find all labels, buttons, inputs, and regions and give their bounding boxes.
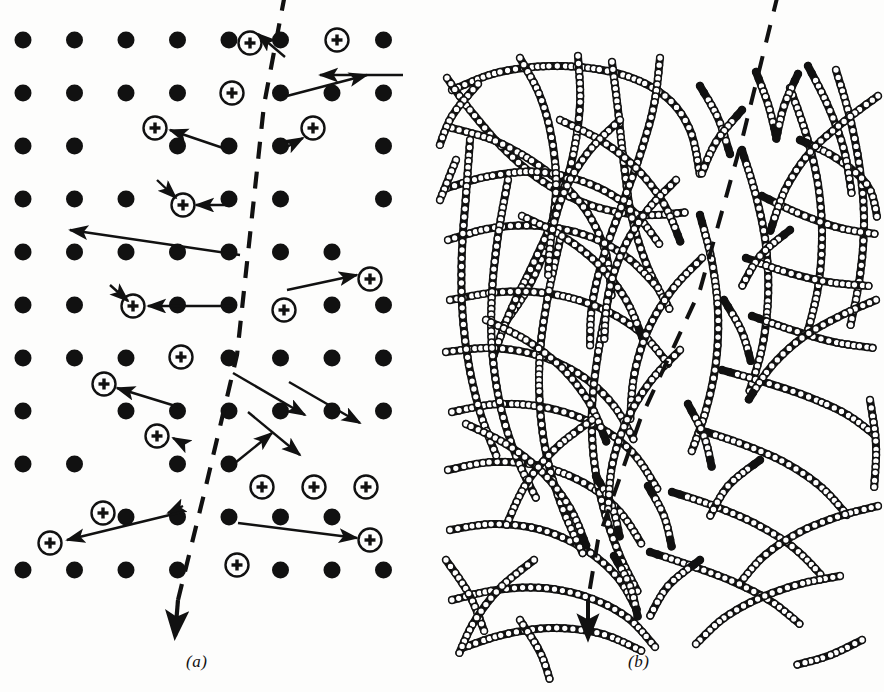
- chain-bead: [607, 234, 614, 241]
- defect-atom-circled-plus: [326, 29, 349, 52]
- chain-bead: [534, 168, 541, 175]
- chain-bead: [668, 98, 675, 105]
- chain-bead: [657, 55, 664, 62]
- chain-bead: [673, 104, 680, 111]
- chain-bead: [730, 477, 737, 484]
- chain-bead: [595, 261, 602, 268]
- chain-bead: [714, 499, 721, 506]
- chain-bead: [656, 349, 663, 356]
- chain-bead: [576, 198, 583, 205]
- chain-bead: [491, 368, 498, 375]
- chain-bead: [736, 440, 743, 447]
- chain-bead: [744, 516, 751, 523]
- chain-end-bead: [745, 350, 752, 357]
- chain-bead: [807, 318, 814, 325]
- chain-bead: [587, 550, 594, 557]
- chain-bead: [627, 256, 634, 263]
- chain-bead: [455, 595, 462, 602]
- chain-bead: [503, 521, 510, 528]
- chain-bead: [682, 117, 689, 124]
- chain-bead: [784, 95, 791, 102]
- chain-bead: [593, 364, 600, 371]
- chain-bead: [818, 335, 825, 342]
- chain-bead: [790, 388, 797, 395]
- chain-bead: [647, 612, 654, 619]
- chain-bead: [512, 296, 519, 303]
- chain-bead: [769, 546, 776, 553]
- chain-bead: [577, 425, 584, 432]
- chain-bead: [535, 464, 542, 471]
- chain-bead: [500, 414, 507, 421]
- lattice-atom: [221, 32, 238, 49]
- chain-bead: [573, 536, 580, 543]
- chain-end-bead: [749, 313, 756, 320]
- chain-bead: [857, 270, 864, 277]
- chain-bead: [833, 67, 840, 74]
- lattice-atom: [272, 350, 289, 367]
- chain-bead: [604, 207, 611, 214]
- chain-bead: [486, 459, 493, 466]
- chain-bead: [456, 407, 463, 414]
- chain-bead: [644, 129, 651, 136]
- chain-bead: [476, 118, 483, 125]
- chain-end-bead: [596, 479, 603, 486]
- chain-bead: [818, 243, 825, 250]
- chain-bead: [458, 296, 465, 303]
- chain-bead: [571, 241, 578, 248]
- chain-bead: [601, 187, 608, 194]
- chain-bead: [524, 562, 531, 569]
- chain-end-bead: [759, 193, 766, 200]
- defect-atom-circled-plus: [355, 476, 378, 499]
- chain-bead: [869, 344, 876, 351]
- chain-bead: [662, 93, 669, 100]
- lattice-atom: [272, 191, 289, 208]
- chain-bead: [464, 354, 471, 361]
- chain-bead: [643, 176, 650, 183]
- chain-bead: [575, 591, 582, 598]
- chain-end-bead: [677, 238, 684, 245]
- chain-bead: [589, 596, 596, 603]
- chain-bead: [615, 438, 622, 445]
- lattice-atom: [15, 85, 32, 102]
- chain-bead: [550, 142, 557, 149]
- chain-bead: [617, 117, 624, 124]
- chain-bead: [493, 383, 500, 390]
- chain-bead: [595, 348, 602, 355]
- defect-atom-circled-plus: [39, 532, 62, 555]
- chain-bead: [740, 603, 747, 610]
- chain-bead: [532, 494, 539, 501]
- chain-bead: [673, 177, 680, 184]
- chain-bead: [606, 491, 613, 498]
- chain-bead: [507, 288, 514, 295]
- chain-bead: [584, 210, 591, 217]
- chain-bead: [708, 569, 715, 576]
- chain-bead: [536, 90, 543, 97]
- chain-bead: [492, 250, 499, 257]
- chain-bead: [762, 328, 769, 335]
- chain-end-bead: [699, 219, 706, 226]
- chain-bead: [772, 454, 779, 461]
- chain-bead: [526, 476, 533, 483]
- chain-bead: [681, 209, 688, 216]
- chain-bead: [496, 398, 503, 405]
- chain-bead: [623, 576, 630, 583]
- chain-bead: [785, 180, 792, 187]
- chain-bead: [575, 163, 582, 170]
- chain-bead: [559, 587, 566, 594]
- chain-bead: [567, 176, 574, 183]
- chain-bead: [722, 575, 729, 582]
- chain-bead: [651, 99, 658, 106]
- chain-bead: [623, 189, 630, 196]
- chain-bead: [595, 272, 602, 279]
- lattice-atom: [375, 403, 392, 420]
- chain-bead: [497, 632, 504, 639]
- chain-bead: [817, 204, 824, 211]
- chain-bead: [860, 246, 867, 253]
- chain-end-bead: [668, 543, 675, 550]
- crack-dashed-line-a-arrowhead: [175, 600, 178, 636]
- chain-bead: [613, 445, 620, 452]
- chain-end-bead: [634, 613, 641, 620]
- chain-bead: [601, 631, 608, 638]
- chain-bead: [771, 214, 778, 221]
- chain-bead: [743, 442, 750, 449]
